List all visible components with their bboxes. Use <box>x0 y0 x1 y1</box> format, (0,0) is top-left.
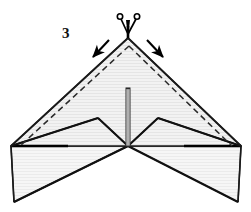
center-fin-keel <box>126 88 130 146</box>
scissors-icon <box>117 14 139 38</box>
paper-airplane-diagram <box>0 0 251 212</box>
fold-arrow-left <box>93 40 109 57</box>
step-number-label: 3 <box>62 26 70 41</box>
fold-arrow-right <box>147 40 163 57</box>
figure-root: 3 <box>0 0 251 212</box>
